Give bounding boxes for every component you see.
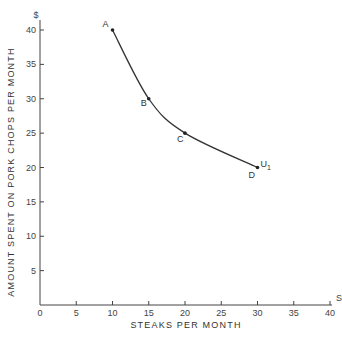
y-tick-label: 10 bbox=[26, 231, 36, 241]
x-tick-label: 10 bbox=[107, 308, 117, 318]
x-tick-label: 25 bbox=[216, 308, 226, 318]
point-label-d: D bbox=[249, 170, 256, 180]
y-tick-label: 25 bbox=[26, 128, 36, 138]
data-point-c bbox=[183, 131, 187, 135]
indifference-curve-chart: $ S 0510152025303540 510152025303540 STE… bbox=[0, 0, 342, 339]
y-axis-title: AMOUNT SPENT ON PORK CHOPS PER MONTH bbox=[6, 47, 16, 296]
x-tick-label: 20 bbox=[180, 308, 190, 318]
x-tick-label: 30 bbox=[252, 308, 262, 318]
data-point-a bbox=[111, 28, 115, 32]
x-ticks: 0510152025303540 bbox=[37, 301, 335, 318]
point-label-c: C bbox=[177, 134, 184, 144]
x-tick-label: 0 bbox=[37, 308, 42, 318]
x-axis-unit: S bbox=[336, 293, 342, 303]
point-label-b: B bbox=[141, 98, 147, 108]
curve-label: U1 bbox=[261, 159, 272, 171]
y-tick-label: 20 bbox=[26, 163, 36, 173]
y-tick-label: 5 bbox=[31, 266, 36, 276]
y-tick-label: 15 bbox=[26, 197, 36, 207]
x-tick-label: 15 bbox=[144, 308, 154, 318]
x-tick-label: 40 bbox=[325, 308, 335, 318]
data-point-b bbox=[147, 97, 151, 101]
x-tick-label: 5 bbox=[74, 308, 79, 318]
point-label-a: A bbox=[103, 19, 109, 29]
y-tick-label: 30 bbox=[26, 94, 36, 104]
y-tick-label: 35 bbox=[26, 59, 36, 69]
x-axis-title: STEAKS PER MONTH bbox=[130, 320, 241, 330]
curve-points: ABCD bbox=[103, 19, 260, 180]
y-ticks: 510152025303540 bbox=[26, 25, 44, 276]
indifference-curve-u1 bbox=[113, 30, 258, 168]
data-point-d bbox=[256, 166, 260, 170]
y-axis-unit: $ bbox=[33, 10, 38, 20]
y-tick-label: 40 bbox=[26, 25, 36, 35]
x-tick-label: 35 bbox=[289, 308, 299, 318]
